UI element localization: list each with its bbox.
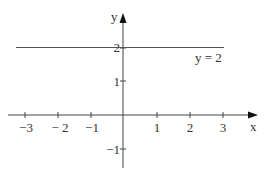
x-tick-label: 3: [220, 120, 227, 135]
x-axis-arrow-icon: [248, 112, 258, 119]
y-axis: y 2 1 −1: [106, 9, 126, 168]
y-tick-labels: 2 1 −1: [106, 40, 120, 157]
x-axis-label: x: [250, 119, 257, 134]
y-axis-label: y: [111, 9, 118, 24]
x-tick-label: 1: [154, 120, 161, 135]
x-tick-label: − 2: [51, 120, 68, 135]
y-tick-label: −1: [106, 142, 120, 157]
graph: x −3 − 2 −1 1 2 3 y 2 1: [0, 0, 265, 173]
x-tick-label: −3: [19, 120, 33, 135]
x-tick-label: 2: [187, 120, 194, 135]
y-axis-arrow-icon: [120, 13, 127, 23]
x-tick-label: −1: [85, 120, 99, 135]
y-tick-label: 1: [114, 74, 121, 89]
x-axis: x −3 − 2 −1 1 2 3: [8, 112, 258, 136]
line-annotation: y = 2: [195, 50, 222, 65]
series-y-equals-2: y = 2: [16, 48, 224, 66]
